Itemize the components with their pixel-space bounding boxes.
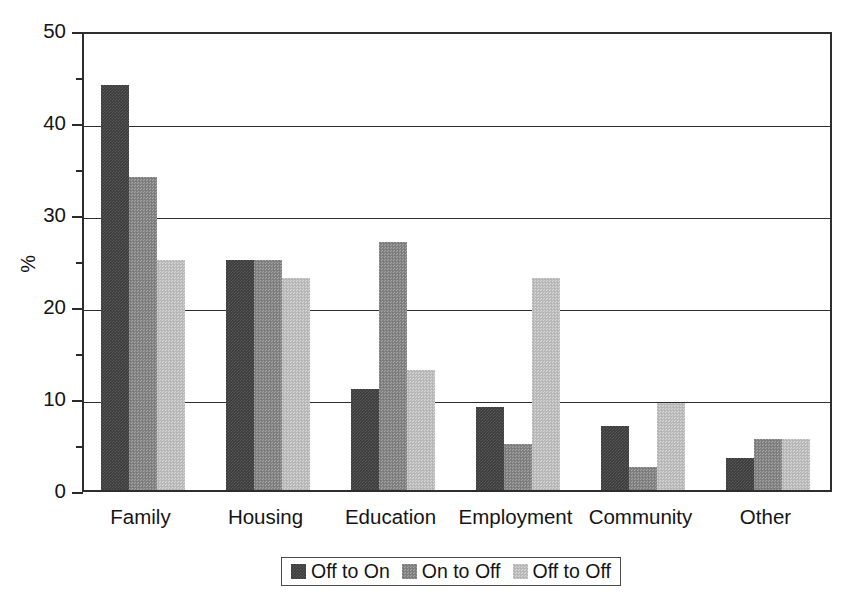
bar (726, 458, 754, 490)
bar (629, 467, 657, 490)
y-tick-major-0 (72, 492, 83, 494)
chart-legend: Off to OnOn to OffOff to Off (281, 557, 621, 586)
legend-entry: Off to On (291, 562, 390, 582)
legend-swatch-icon (513, 564, 528, 579)
y-axis-label-30: 30 (0, 205, 66, 226)
y-axis-label-0: 0 (0, 481, 66, 502)
legend-entry: On to Off (402, 562, 501, 582)
gridline-40 (84, 126, 830, 127)
legend-swatch-icon (291, 564, 306, 579)
bar (226, 260, 254, 490)
bar (754, 439, 782, 490)
bar (101, 85, 129, 490)
y-axis-label-10: 10 (0, 389, 66, 410)
legend-swatch-icon (402, 564, 417, 579)
bar (504, 444, 532, 490)
bar (407, 370, 435, 490)
gridline-20 (84, 310, 830, 311)
legend-label: On to Off (422, 562, 501, 582)
legend-entry: Off to Off (513, 562, 611, 582)
bar (782, 439, 810, 490)
bar (532, 278, 560, 490)
y-axis-title: % (17, 244, 40, 284)
bar-chart: % 01020304050 FamilyHousingEducationEmpl… (0, 0, 843, 604)
bar (254, 260, 282, 490)
y-axis-label-20: 20 (0, 297, 66, 318)
bar (157, 260, 185, 490)
legend-label: Off to Off (533, 562, 611, 582)
bar (351, 389, 379, 490)
bar (379, 242, 407, 490)
plot-area (82, 32, 832, 492)
bar (476, 407, 504, 490)
bar (657, 403, 685, 490)
gridline-10 (84, 402, 830, 403)
bar (129, 177, 157, 490)
x-axis-label-other: Other (676, 505, 843, 529)
bar (282, 278, 310, 490)
legend-label: Off to On (311, 562, 390, 582)
gridline-30 (84, 218, 830, 219)
y-axis-label-40: 40 (0, 113, 66, 134)
bar (601, 426, 629, 490)
y-axis-label-50: 50 (0, 21, 66, 42)
